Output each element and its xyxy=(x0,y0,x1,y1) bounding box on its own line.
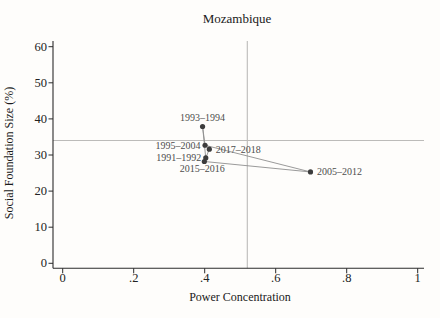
data-point-marker xyxy=(200,124,205,129)
data-point-label: 1993–1994 xyxy=(180,112,225,123)
data-point-marker xyxy=(202,143,207,148)
y-tick-label: 20 xyxy=(35,184,48,198)
data-point-marker xyxy=(308,169,313,174)
y-tick-label: 0 xyxy=(41,256,47,270)
y-tick-label: 60 xyxy=(35,40,48,54)
data-point-marker xyxy=(207,147,212,152)
x-tick-label: 0 xyxy=(60,271,66,285)
x-tick-label: .8 xyxy=(342,271,351,285)
data-point-label: 1991–1992 xyxy=(156,152,201,163)
chart-background xyxy=(0,0,440,318)
x-tick-label: .6 xyxy=(271,271,280,285)
y-tick-label: 50 xyxy=(35,76,48,90)
x-tick-label: 1 xyxy=(415,271,421,285)
x-tick-label: .2 xyxy=(129,271,138,285)
x-axis-title: Power Concentration xyxy=(189,290,291,304)
y-tick-label: 30 xyxy=(35,148,48,162)
x-tick-label: .4 xyxy=(200,271,210,285)
data-point-label: 2005–2012 xyxy=(317,166,362,177)
data-point-label: 2015–2016 xyxy=(180,163,225,174)
y-axis-title: Social Foundation Size (%) xyxy=(2,87,16,219)
chart-title: Mozambique xyxy=(203,11,272,26)
figure-mozambique-chart: 0.2.4.6.810102030405060 1991–19921993–19… xyxy=(0,0,440,318)
data-point-label: 2017–2018 xyxy=(216,144,261,155)
y-tick-label: 10 xyxy=(35,220,48,234)
data-point-label: 1995–2004 xyxy=(156,140,201,151)
chart-canvas: 0.2.4.6.810102030405060 1991–19921993–19… xyxy=(0,0,440,318)
y-tick-label: 40 xyxy=(35,112,48,126)
